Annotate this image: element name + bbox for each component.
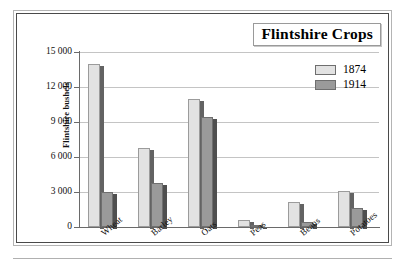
- bar-group: [180, 52, 230, 227]
- y-axis-tick-label: 15 000: [46, 47, 72, 57]
- legend-swatch-1874: [315, 65, 336, 75]
- y-axis-tick-label: 12 000: [46, 82, 72, 92]
- footer-divider: [13, 258, 392, 259]
- legend-label-1914: 1914: [343, 79, 366, 91]
- bar-potatoes-1874: [338, 191, 350, 227]
- bar-face: [88, 64, 100, 227]
- y-axis-tick-labels: 03 0006 0009 00012 00015 000: [17, 14, 72, 250]
- bar-face: [238, 220, 250, 227]
- bar-oats-1914: [201, 117, 213, 227]
- bar-face: [201, 117, 213, 227]
- bar-beans-1874: [288, 202, 300, 227]
- bar-shadow: [213, 119, 217, 229]
- legend-swatch-1914: [315, 80, 336, 90]
- bar-peas-1874: [238, 220, 250, 227]
- bar-oats-1874: [188, 99, 200, 227]
- chart-title-box: Flintshire Crops: [253, 23, 381, 46]
- legend-label-1874: 1874: [343, 64, 366, 76]
- bar-group: [130, 52, 180, 227]
- legend-item: 1914: [315, 78, 366, 91]
- legend-item: 1874: [315, 63, 366, 76]
- bar-face: [338, 191, 350, 227]
- bar-face: [188, 99, 200, 227]
- x-axis-line: [79, 227, 380, 228]
- chart-page: Flintshire Crops 1874 1914 Flintshire bu…: [0, 0, 406, 272]
- y-axis-tick-label: 6 000: [51, 152, 72, 162]
- bar-wheat-1874: [88, 64, 100, 227]
- bar-group: [230, 52, 280, 227]
- y-axis-tick-label: 0: [67, 222, 72, 232]
- chart-frame: Flintshire Crops 1874 1914 Flintshire bu…: [13, 10, 392, 246]
- bar-group: [80, 52, 130, 227]
- chart-legend: 1874 1914: [315, 63, 366, 93]
- bar-barley-1874: [138, 148, 150, 227]
- bar-face: [288, 202, 300, 227]
- y-axis-tick-label: 9 000: [51, 117, 72, 127]
- chart-frame-inner: Flintshire Crops 1874 1914 Flintshire bu…: [16, 13, 389, 243]
- y-axis-tick-label: 3 000: [51, 187, 72, 197]
- bar-face: [138, 148, 150, 227]
- page-title: Flintshire Crops: [261, 26, 373, 42]
